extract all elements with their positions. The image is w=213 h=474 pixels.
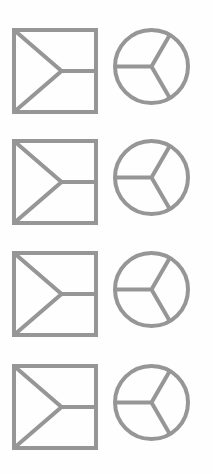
- glyph-row: [0, 28, 213, 112]
- square-glyph-svg: [12, 364, 98, 450]
- square-glyph: [12, 139, 98, 225]
- square-glyph: [12, 364, 98, 450]
- circle-glyph-svg: [113, 364, 190, 441]
- circle-glyph-svg: [113, 28, 190, 105]
- circle-glyph-svg: [113, 139, 190, 216]
- circle-glyph: [113, 251, 191, 337]
- circle-glyph: [113, 139, 191, 225]
- square-glyph-svg: [12, 251, 98, 337]
- glyph-row: [0, 251, 213, 335]
- circle-glyph: [113, 364, 191, 450]
- square-glyph: [12, 251, 98, 337]
- circle-glyph: [113, 28, 191, 114]
- square-glyph: [12, 28, 98, 114]
- glyph-row: [0, 364, 213, 448]
- glyph-row: [0, 139, 213, 223]
- square-glyph-svg: [12, 139, 98, 225]
- glyph-grid: [0, 0, 213, 474]
- circle-glyph-svg: [113, 251, 190, 328]
- square-glyph-svg: [12, 28, 98, 114]
